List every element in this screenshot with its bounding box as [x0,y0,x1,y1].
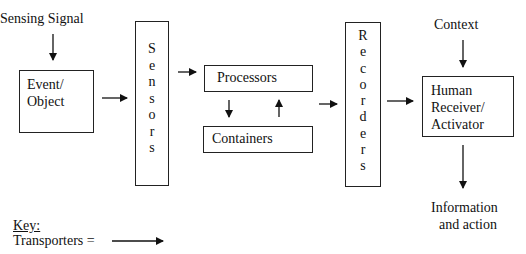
key-title: Key: [13,218,40,234]
processors-box: Processors [204,65,313,92]
event-object-line2: Object [27,94,64,110]
human-line3: Activator [431,117,484,133]
recorders-label: Recorders [346,28,380,175]
containers-label: Containers [212,131,273,147]
event-object-line1: Event/ [27,77,64,93]
key-transporters-label: Transporters = [13,233,95,249]
human-receiver-box: Human Receiver/ Activator [422,76,514,137]
sensing-signal-label: Sensing Signal [0,11,84,27]
recorders-box: Recorders [345,22,381,187]
human-line1: Human [431,83,472,99]
sensors-box: Sensors [135,21,169,186]
processors-label: Processors [217,70,277,86]
human-line2: Receiver/ [431,100,485,116]
event-object-box: Event/ Object [19,70,94,133]
context-label: Context [434,17,478,33]
information-line2: and action [439,217,497,233]
sensors-label: Sensors [136,41,168,157]
information-line1: Information [431,200,498,216]
containers-box: Containers [203,126,313,153]
